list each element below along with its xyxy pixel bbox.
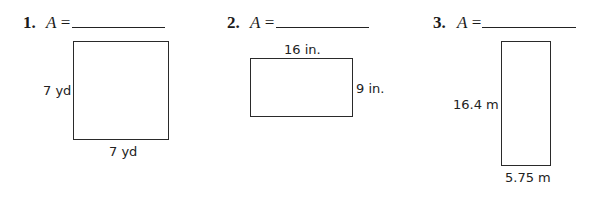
- side-length-label: 7 yd: [43, 84, 71, 98]
- problem-number: 1.: [23, 14, 36, 31]
- square-figure: [73, 41, 169, 140]
- area-label: A =: [46, 14, 70, 31]
- bottom-length-label: 5.75 m: [505, 171, 551, 185]
- equals-sign: =: [265, 13, 275, 32]
- equals-sign: =: [61, 13, 71, 32]
- problem-number: 2.: [227, 14, 240, 31]
- top-length-label: 16 in.: [284, 43, 321, 57]
- bottom-length-label: 7 yd: [109, 145, 137, 159]
- problem-number: 3.: [433, 14, 446, 31]
- area-label: A =: [457, 14, 481, 31]
- area-variable: A: [250, 13, 260, 32]
- rectangle-figure: [250, 58, 353, 117]
- area-label: A =: [250, 14, 274, 31]
- side-length-label: 9 in.: [356, 82, 384, 96]
- equals-sign: =: [472, 13, 482, 32]
- answer-blank[interactable]: [482, 27, 576, 28]
- answer-blank[interactable]: [72, 27, 165, 28]
- area-variable: A: [46, 13, 56, 32]
- side-length-label: 16.4 m: [453, 98, 499, 112]
- answer-blank[interactable]: [276, 27, 369, 28]
- area-variable: A: [457, 13, 467, 32]
- rectangle-figure: [501, 41, 551, 166]
